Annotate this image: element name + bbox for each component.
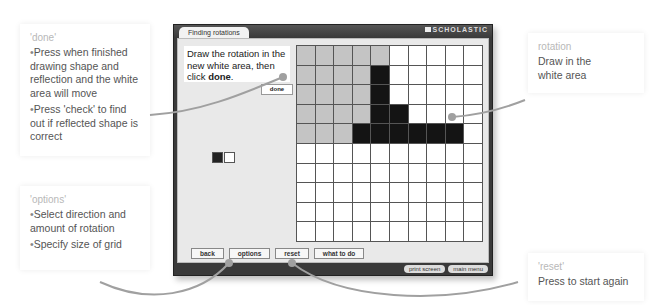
grid-cell[interactable] — [427, 105, 445, 124]
grid-cell[interactable] — [427, 164, 445, 183]
grid-cell[interactable] — [297, 183, 315, 202]
grid-cell[interactable] — [371, 203, 389, 222]
grid-cell[interactable] — [353, 66, 371, 85]
grid-cell[interactable] — [316, 124, 334, 143]
grid-cell[interactable] — [353, 105, 371, 124]
grid-cell[interactable] — [371, 105, 389, 124]
swatch-white[interactable] — [224, 152, 235, 163]
grid-cell[interactable] — [297, 144, 315, 163]
grid-cell[interactable] — [446, 164, 464, 183]
grid-cell[interactable] — [353, 144, 371, 163]
grid-cell[interactable] — [297, 46, 315, 65]
grid-cell[interactable] — [464, 105, 482, 124]
grid-cell[interactable] — [297, 222, 315, 241]
grid-cell[interactable] — [390, 124, 408, 143]
grid-cell[interactable] — [353, 203, 371, 222]
grid-cell[interactable] — [371, 144, 389, 163]
grid-cell[interactable] — [334, 183, 352, 202]
grid-cell[interactable] — [427, 85, 445, 104]
grid-cell[interactable] — [316, 183, 334, 202]
grid-cell[interactable] — [334, 164, 352, 183]
grid-cell[interactable] — [446, 85, 464, 104]
grid-cell[interactable] — [409, 222, 427, 241]
grid-cell[interactable] — [409, 164, 427, 183]
drawing-grid[interactable] — [296, 45, 483, 242]
grid-cell[interactable] — [464, 124, 482, 143]
grid-cell[interactable] — [334, 66, 352, 85]
main-menu-button[interactable]: main menu — [448, 265, 488, 273]
grid-cell[interactable] — [427, 124, 445, 143]
grid-cell[interactable] — [353, 222, 371, 241]
grid-cell[interactable] — [297, 203, 315, 222]
grid-cell[interactable] — [390, 46, 408, 65]
grid-cell[interactable] — [316, 105, 334, 124]
grid-cell[interactable] — [297, 85, 315, 104]
grid-cell[interactable] — [316, 144, 334, 163]
grid-cell[interactable] — [464, 222, 482, 241]
grid-cell[interactable] — [353, 124, 371, 143]
grid-cell[interactable] — [446, 183, 464, 202]
grid-cell[interactable] — [371, 164, 389, 183]
grid-cell[interactable] — [334, 222, 352, 241]
grid-cell[interactable] — [427, 144, 445, 163]
grid-cell[interactable] — [464, 164, 482, 183]
grid-cell[interactable] — [371, 124, 389, 143]
grid-cell[interactable] — [390, 144, 408, 163]
grid-cell[interactable] — [409, 105, 427, 124]
grid-cell[interactable] — [334, 203, 352, 222]
grid-cell[interactable] — [409, 66, 427, 85]
grid-cell[interactable] — [390, 66, 408, 85]
swatch-black[interactable] — [212, 152, 223, 163]
grid-cell[interactable] — [371, 183, 389, 202]
grid-cell[interactable] — [409, 203, 427, 222]
grid-cell[interactable] — [316, 164, 334, 183]
grid-cell[interactable] — [409, 144, 427, 163]
grid-cell[interactable] — [316, 85, 334, 104]
grid-cell[interactable] — [464, 46, 482, 65]
grid-cell[interactable] — [390, 105, 408, 124]
grid-cell[interactable] — [427, 222, 445, 241]
grid-cell[interactable] — [371, 222, 389, 241]
what-to-do-button[interactable]: what to do — [314, 248, 365, 259]
grid-cell[interactable] — [316, 66, 334, 85]
grid-cell[interactable] — [297, 105, 315, 124]
grid-cell[interactable] — [427, 46, 445, 65]
grid-cell[interactable] — [353, 46, 371, 65]
grid-cell[interactable] — [446, 203, 464, 222]
grid-cell[interactable] — [334, 105, 352, 124]
grid-cell[interactable] — [464, 203, 482, 222]
grid-cell[interactable] — [446, 222, 464, 241]
grid-cell[interactable] — [446, 66, 464, 85]
grid-cell[interactable] — [464, 85, 482, 104]
grid-cell[interactable] — [297, 66, 315, 85]
grid-cell[interactable] — [390, 183, 408, 202]
grid-cell[interactable] — [316, 203, 334, 222]
back-button[interactable]: back — [191, 248, 224, 259]
grid-cell[interactable] — [371, 85, 389, 104]
grid-cell[interactable] — [371, 46, 389, 65]
grid-cell[interactable] — [390, 222, 408, 241]
grid-cell[interactable] — [334, 144, 352, 163]
grid-cell[interactable] — [353, 183, 371, 202]
grid-cell[interactable] — [409, 85, 427, 104]
grid-cell[interactable] — [334, 124, 352, 143]
grid-cell[interactable] — [427, 203, 445, 222]
grid-cell[interactable] — [316, 222, 334, 241]
options-button[interactable]: options — [229, 248, 270, 259]
grid-cell[interactable] — [297, 124, 315, 143]
grid-cell[interactable] — [353, 164, 371, 183]
grid-cell[interactable] — [409, 124, 427, 143]
grid-cell[interactable] — [464, 183, 482, 202]
grid-cell[interactable] — [334, 46, 352, 65]
grid-cell[interactable] — [371, 66, 389, 85]
grid-cell[interactable] — [427, 66, 445, 85]
grid-cell[interactable] — [390, 85, 408, 104]
grid-cell[interactable] — [446, 124, 464, 143]
done-button[interactable]: done — [261, 84, 293, 95]
grid-cell[interactable] — [409, 46, 427, 65]
grid-cell[interactable] — [353, 85, 371, 104]
grid-cell[interactable] — [446, 105, 464, 124]
grid-cell[interactable] — [427, 183, 445, 202]
grid-cell[interactable] — [409, 183, 427, 202]
grid-cell[interactable] — [464, 144, 482, 163]
